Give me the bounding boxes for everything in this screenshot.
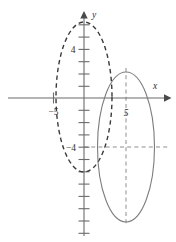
x-tick-label-negative-five: −5 xyxy=(48,107,58,117)
x-axis-label: x xyxy=(152,81,158,91)
y-axis-label: y xyxy=(91,10,97,20)
y-tick-label-negative-four: −4 xyxy=(66,143,76,153)
y-axis-arrowhead xyxy=(80,11,87,19)
x-tick-label-five: 5 xyxy=(124,108,129,118)
x-axis-arrowhead xyxy=(164,94,172,101)
coordinate-plane-svg: x y −5 5 4 −4 xyxy=(0,0,176,242)
y-tick-label-four: 4 xyxy=(71,45,76,55)
graph-figure: x y −5 5 4 −4 xyxy=(0,0,176,242)
